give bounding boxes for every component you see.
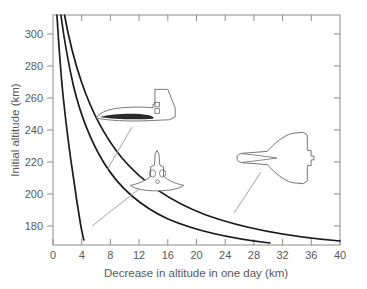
x-tick-label: 12	[133, 249, 145, 261]
x-tick-label: 28	[248, 249, 260, 261]
annotation-leader-lines	[92, 127, 261, 226]
leader-line-top-view	[234, 172, 261, 213]
x-tick-label: 20	[190, 249, 202, 261]
x-tick-label: 24	[219, 249, 231, 261]
x-axis-title: Decrease in altitude in one day (km)	[104, 267, 288, 279]
x-tick-label: 4	[79, 249, 85, 261]
leader-line-front-view	[92, 189, 139, 226]
y-tick-label: 240	[25, 124, 43, 136]
decay-curve-middle	[61, 15, 270, 243]
leader-line-side-view	[107, 127, 132, 170]
y-axis-title: Initial altitude (km)	[9, 83, 21, 176]
chart-svg: 300 280 260 240 220 200 180 0 4 8 12 16 …	[0, 0, 367, 289]
x-tick-label: 36	[305, 249, 317, 261]
x-tick-label: 40	[334, 249, 346, 261]
y-tick-label: 220	[25, 156, 43, 168]
orbital-decay-chart: 300 280 260 240 220 200 180 0 4 8 12 16 …	[0, 0, 367, 289]
shuttle-front-body	[130, 150, 183, 190]
y-axis-ticks-right	[334, 34, 340, 226]
x-tick-label: 32	[276, 249, 288, 261]
data-curves	[57, 15, 340, 243]
decay-curve-right	[65, 15, 341, 241]
y-axis-ticks-left	[47, 34, 53, 226]
y-tick-label: 300	[25, 28, 43, 40]
x-tick-label: 8	[107, 249, 113, 261]
x-tick-label: 16	[162, 249, 174, 261]
x-axis-ticks-bottom	[53, 239, 340, 245]
x-axis-tick-labels: 0 4 8 12 16 20 24 28 32 36 40	[50, 249, 346, 261]
y-tick-label: 280	[25, 60, 43, 72]
shuttle-side-view-icon	[96, 89, 175, 121]
shuttle-top-view-icon	[237, 132, 314, 183]
y-tick-label: 200	[25, 188, 43, 200]
x-tick-label: 0	[50, 249, 56, 261]
y-tick-label: 260	[25, 92, 43, 104]
y-axis-tick-labels: 300 280 260 240 220 200 180	[25, 28, 43, 232]
decay-curve-left	[57, 15, 84, 240]
x-axis-ticks-top	[82, 15, 312, 21]
y-tick-label: 180	[25, 220, 43, 232]
shuttle-front-view-icon	[130, 150, 183, 190]
